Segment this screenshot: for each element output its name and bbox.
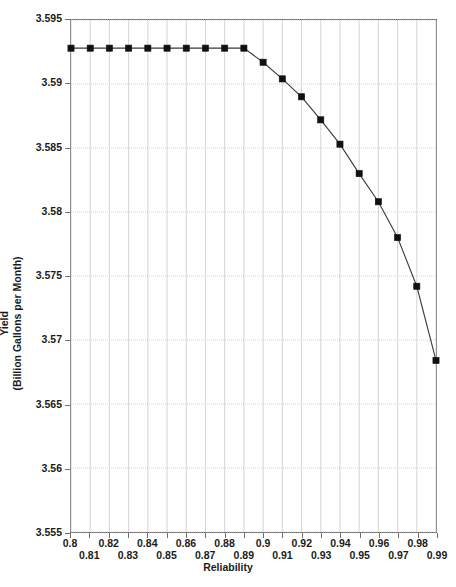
x-tick-label: 0.84 xyxy=(137,537,157,549)
x-tick-label: 0.91 xyxy=(272,549,292,561)
x-tick-label: 0.83 xyxy=(118,549,138,561)
x-tick-label: 0.82 xyxy=(98,537,118,549)
y-tick-mark xyxy=(65,469,70,470)
x-tick-mark xyxy=(186,533,187,538)
y-tick-mark xyxy=(65,212,70,213)
x-tick-label: 0.8 xyxy=(63,537,78,549)
x-tick-label: 0.85 xyxy=(156,549,176,561)
y-tick-label: 3.595 xyxy=(0,12,62,24)
x-tick-mark xyxy=(437,533,438,538)
x-tick-mark xyxy=(379,533,380,538)
plot-area xyxy=(70,19,437,533)
x-tick-mark xyxy=(225,533,226,538)
y-tick-label: 3.575 xyxy=(0,269,62,281)
x-tick-mark xyxy=(302,533,303,538)
y-tick-mark xyxy=(65,340,70,341)
yield-series xyxy=(71,20,436,532)
y-tick-mark xyxy=(65,276,70,277)
x-tick-mark xyxy=(128,533,129,538)
y-tick-label: 3.555 xyxy=(0,526,62,538)
x-tick-mark xyxy=(282,533,283,538)
x-tick-mark xyxy=(418,533,419,538)
y-tick-mark xyxy=(65,148,70,149)
x-tick-label: 0.97 xyxy=(388,549,408,561)
x-tick-mark xyxy=(89,533,90,538)
x-tick-label: 0.96 xyxy=(369,537,389,549)
x-tick-label: 0.92 xyxy=(292,537,312,549)
x-tick-mark xyxy=(205,533,206,538)
x-tick-label: 0.9 xyxy=(256,537,271,549)
y-tick-label: 3.56 xyxy=(0,462,62,474)
x-tick-label: 0.99 xyxy=(427,549,447,561)
x-tick-label: 0.88 xyxy=(214,537,234,549)
y-tick-label: 3.585 xyxy=(0,141,62,153)
x-axis-title: Reliability xyxy=(0,561,456,573)
x-tick-mark xyxy=(244,533,245,538)
x-tick-mark xyxy=(321,533,322,538)
x-tick-mark xyxy=(147,533,148,538)
y-tick-mark xyxy=(65,19,70,20)
x-tick-mark xyxy=(340,533,341,538)
x-tick-mark xyxy=(398,533,399,538)
x-tick-label: 0.89 xyxy=(234,549,254,561)
x-tick-label: 0.93 xyxy=(311,549,331,561)
y-tick-label: 3.565 xyxy=(0,398,62,410)
x-tick-label: 0.95 xyxy=(350,549,370,561)
x-tick-mark xyxy=(70,533,71,538)
x-tick-mark xyxy=(263,533,264,538)
x-tick-label: 0.81 xyxy=(79,549,99,561)
y-tick-label: 3.59 xyxy=(0,76,62,88)
x-tick-label: 0.94 xyxy=(330,537,350,549)
y-tick-mark xyxy=(65,405,70,406)
x-tick-mark xyxy=(360,533,361,538)
y-tick-mark xyxy=(65,83,70,84)
x-tick-label: 0.87 xyxy=(195,549,215,561)
x-tick-mark xyxy=(167,533,168,538)
x-tick-label: 0.98 xyxy=(407,537,427,549)
yield-reliability-chart: 3.5553.563.5653.573.5753.583.5853.593.59… xyxy=(0,0,456,587)
x-tick-label: 0.86 xyxy=(176,537,196,549)
y-tick-label: 3.57 xyxy=(0,333,62,345)
x-tick-mark xyxy=(109,533,110,538)
y-tick-label: 3.58 xyxy=(0,205,62,217)
